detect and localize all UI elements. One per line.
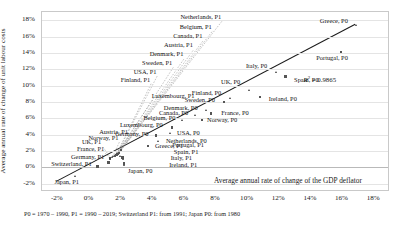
- data-point: [284, 75, 286, 77]
- y-axis-tick-label: 6%: [5, 113, 35, 121]
- data-point-label: Switzerland, P1: [51, 160, 91, 167]
- x-axis-tick-label: 18%: [353, 194, 393, 202]
- data-point-label: Ireland, P1: [169, 161, 197, 168]
- data-point: [171, 126, 173, 128]
- y-axis-tick-label: 2%: [5, 146, 35, 154]
- data-point-label: Luxembourg, P0: [120, 121, 163, 128]
- data-point: [259, 96, 261, 98]
- data-point-label: UK, P0: [221, 78, 240, 85]
- data-point-label: Canada, P1: [173, 32, 202, 39]
- data-point: [147, 145, 149, 147]
- data-point-label: France, P1: [77, 145, 104, 152]
- data-point: [205, 109, 207, 111]
- data-point: [169, 132, 171, 134]
- data-point-label: Norway, P0: [207, 116, 237, 123]
- data-point-label: Italy, P0: [246, 62, 267, 69]
- y-axis-tick-label: -2%: [5, 179, 35, 187]
- data-point: [248, 89, 250, 91]
- chart-footnote: P0 = 1970 – 1990, P1 = 1990 – 2019; Swit…: [24, 210, 240, 217]
- plot-area: [41, 11, 389, 191]
- data-point: [194, 114, 196, 116]
- y-axis-tick-label: 10%: [5, 81, 35, 89]
- data-point-label: Belgium, P1: [180, 23, 212, 30]
- y-axis-tick-label: 12%: [5, 64, 35, 72]
- data-point: [109, 157, 111, 159]
- data-point: [123, 162, 125, 164]
- x-axis-title: Average annual rate of change of the GDP…: [214, 176, 362, 185]
- data-point: [223, 101, 225, 103]
- data-point-label: USA, P1: [134, 68, 157, 75]
- data-point: [74, 175, 76, 177]
- data-point: [107, 161, 109, 163]
- data-point: [275, 71, 277, 73]
- zero-axis-line: [42, 167, 388, 168]
- gridline: [42, 102, 388, 103]
- data-point-label: Austria, P1: [164, 41, 193, 48]
- data-point: [96, 165, 98, 167]
- gridline: [42, 37, 388, 38]
- data-point: [122, 158, 124, 160]
- data-point-label: Finland, P0: [192, 89, 221, 96]
- gridline: [42, 86, 388, 87]
- data-point-label: Greece, P0: [320, 17, 348, 24]
- data-point-label: Japan, P1: [54, 178, 79, 185]
- y-axis-tick-label: 4%: [5, 130, 35, 138]
- data-point: [355, 24, 357, 26]
- y-axis-tick-label: 14%: [5, 48, 35, 56]
- data-point: [155, 134, 157, 136]
- data-point-label: USA, P0: [177, 129, 200, 136]
- r-squared-annotation: R2 = 0.9865: [304, 75, 337, 83]
- data-point: [201, 119, 203, 121]
- data-point-label: Luxembourg, P1: [152, 92, 195, 99]
- data-point: [210, 112, 212, 114]
- data-point-label: Denmark, P1: [150, 50, 184, 57]
- data-point: [123, 164, 125, 166]
- data-point-label: Netherlands, P1: [180, 13, 221, 20]
- y-axis-tick-label: 8%: [5, 97, 35, 105]
- data-point-label: Ireland, P0: [269, 95, 297, 102]
- y-axis-tick-label: 16%: [5, 32, 35, 40]
- y-axis-title: Average annual rate of change of unit la…: [0, 0, 11, 16]
- scatter-chart: Average annual rate of change of unit la…: [0, 0, 397, 235]
- data-point-label: Japan, P0: [128, 167, 153, 174]
- data-point-label: Sweden, P1: [142, 59, 172, 66]
- data-point: [229, 97, 231, 99]
- gridline: [42, 69, 388, 70]
- data-point: [181, 119, 183, 121]
- data-point-label: Portugal, P0: [316, 54, 348, 61]
- data-point-label: Finland, P1: [121, 76, 150, 83]
- data-point: [120, 149, 122, 151]
- y-axis-tick-label: 18%: [5, 15, 35, 23]
- y-axis-tick-label: 0%: [5, 162, 35, 170]
- data-point-label: UK, P1: [82, 138, 101, 145]
- data-point-label: Germany, P1: [71, 153, 104, 160]
